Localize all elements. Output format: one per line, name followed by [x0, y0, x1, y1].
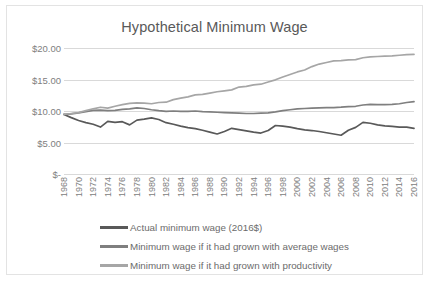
y-tick-label: $-	[17, 169, 61, 180]
x-tick-label: 2002	[307, 177, 317, 197]
x-tick-label: 1980	[147, 177, 157, 197]
x-tick-label: 2008	[351, 177, 361, 197]
x-tick-label: 1974	[103, 177, 113, 197]
legend-item-label: Minimum wage if it had grown with produc…	[130, 260, 332, 271]
chart-legend: Actual minimum wage (2016$)Minimum wage …	[64, 218, 404, 275]
x-tick-label: 2014	[394, 177, 404, 197]
legend-item-label: Actual minimum wage (2016$)	[130, 222, 262, 233]
y-tick-label: $15.00	[17, 74, 61, 85]
x-tick-label: 1986	[190, 177, 200, 197]
x-tick-label: 1968	[59, 177, 69, 197]
x-tick-label: 2016	[409, 177, 419, 197]
gridline-	[64, 174, 414, 175]
y-tick-label: $10.00	[17, 106, 61, 117]
x-tick-label: 1990	[219, 177, 229, 197]
legend-swatch-icon	[100, 226, 128, 229]
x-tick-label: 1976	[117, 177, 127, 197]
x-tick-label: 1994	[249, 177, 259, 197]
legend-item[interactable]: Minimum wage if it had grown with produc…	[64, 256, 404, 275]
x-tick-label: 2012	[380, 177, 390, 197]
x-tick-label: 2006	[336, 177, 346, 197]
series-lines	[64, 48, 414, 174]
x-tick-label: 1972	[88, 177, 98, 197]
legend-item[interactable]: Minimum wage if it had grown with averag…	[64, 237, 404, 256]
series-line	[64, 114, 414, 135]
x-tick-label: 1978	[132, 177, 142, 197]
x-tick-label: 2000	[292, 177, 302, 197]
x-tick-label: 1982	[161, 177, 171, 197]
legend-item-label: Minimum wage if it had grown with averag…	[130, 241, 349, 252]
plot-area	[64, 48, 414, 174]
x-tick-label: 2010	[365, 177, 375, 197]
legend-swatch-icon	[100, 245, 128, 248]
x-tick-label: 1984	[176, 177, 186, 197]
x-tick-label: 2004	[322, 177, 332, 197]
x-tick-label: 1992	[234, 177, 244, 197]
x-tick-label: 1998	[278, 177, 288, 197]
x-axis: 1968197019721974197619781980198219841986…	[64, 177, 414, 217]
chart-container: Hypothetical Minimum Wage $-$5.00$10.00$…	[6, 5, 423, 275]
legend-swatch-icon	[100, 264, 128, 267]
y-tick-label: $20.00	[17, 43, 61, 54]
x-tick-label: 1988	[205, 177, 215, 197]
x-tick-label: 1996	[263, 177, 273, 197]
chart-title: Hypothetical Minimum Wage	[7, 19, 422, 35]
x-tick-label: 1970	[74, 177, 84, 197]
legend-item[interactable]: Actual minimum wage (2016$)	[64, 218, 404, 237]
y-axis: $-$5.00$10.00$15.00$20.00	[17, 48, 61, 174]
series-line	[64, 102, 414, 115]
y-tick-label: $5.00	[17, 137, 61, 148]
